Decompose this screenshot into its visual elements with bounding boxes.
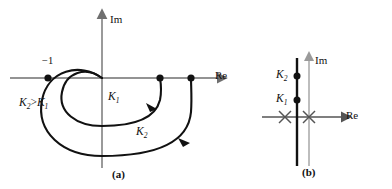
nyquist-curve-k1-label: K1 bbox=[108, 91, 119, 103]
k2-endpoint-marker bbox=[187, 74, 194, 81]
panel-b-caption: (b) bbox=[302, 167, 315, 178]
root-marker-k1-label: K1 bbox=[276, 93, 287, 105]
panel-a-real-axis-label: Re bbox=[215, 70, 227, 81]
nyquist-curve-k1-label-base: K bbox=[108, 90, 116, 102]
panel-a-nyquist-plot: Re Im −1 K1 K2 K2>K1 (a) bbox=[0, 0, 248, 189]
root-marker-k1 bbox=[294, 97, 301, 104]
root-marker-k1-label-sub: 1 bbox=[284, 98, 288, 107]
root-marker-k2-label: K2 bbox=[276, 69, 287, 81]
minus-one-point-label: −1 bbox=[42, 56, 53, 67]
panel-b-root-locus-plot: Im Re K2 K1 (b) bbox=[248, 0, 392, 189]
panel-a-caption: (a) bbox=[112, 169, 125, 180]
gain-comparison-left-base: K bbox=[19, 96, 27, 108]
panel-b-imaginary-axis-label: Im bbox=[315, 55, 327, 66]
root-locus-nyquist-figure: Re Im −1 K1 K2 K2>K1 (a) bbox=[0, 0, 392, 189]
gain-comparison-right-base: K bbox=[37, 96, 45, 108]
root-marker-k2-label-sub: 2 bbox=[284, 74, 288, 83]
gain-comparison-left-sub: 2 bbox=[27, 102, 31, 111]
nyquist-curve-k2-label-base: K bbox=[136, 125, 144, 137]
nyquist-curve-k1-label-sub: 1 bbox=[116, 96, 120, 105]
panel-b-real-axis-label: Re bbox=[346, 110, 358, 121]
minus-one-point-marker bbox=[44, 74, 51, 81]
gain-comparison-right-sub: 1 bbox=[45, 102, 49, 111]
panel-a-canvas bbox=[0, 0, 248, 189]
root-marker-k2 bbox=[294, 73, 301, 80]
root-marker-k2-label-base: K bbox=[276, 68, 284, 80]
panel-a-imaginary-axis-label: Im bbox=[110, 14, 122, 25]
nyquist-curve-k2-label-sub: 2 bbox=[144, 131, 148, 140]
k1-endpoint-marker bbox=[156, 74, 163, 81]
panel-b-canvas bbox=[248, 0, 392, 189]
nyquist-curve-k2-label: K2 bbox=[136, 126, 147, 138]
gain-comparison-note: K2>K1 bbox=[19, 97, 48, 109]
root-marker-k1-label-base: K bbox=[276, 92, 284, 104]
nyquist-curve-k2-arrowhead bbox=[178, 138, 190, 147]
nyquist-curve-k2 bbox=[41, 70, 191, 156]
